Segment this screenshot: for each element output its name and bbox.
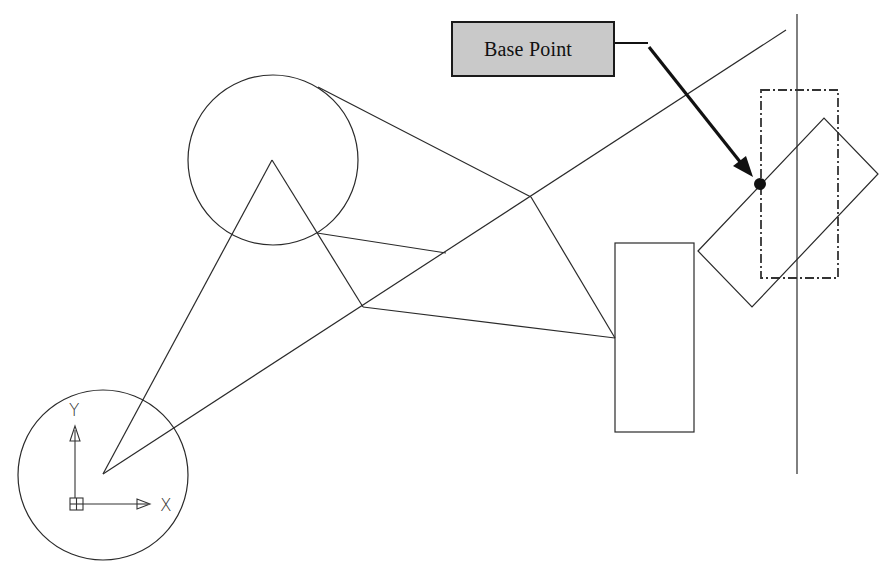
upper-circle	[188, 75, 358, 245]
ucs-y-label: Y	[69, 400, 79, 420]
line-right-vertex-to-rect	[531, 197, 615, 338]
base-point-marker	[754, 178, 766, 190]
ucs-x-label: X	[160, 495, 172, 515]
lower-circle	[18, 390, 188, 560]
line-circle-to-diagonal	[317, 233, 446, 253]
line-lower-vertex-to-apex	[103, 160, 272, 474]
line-mid-vertex-to-rect	[363, 307, 615, 338]
callout-arrow-shaft	[649, 47, 741, 163]
callout-label: Base Point	[453, 38, 572, 61]
long-diagonal-line	[103, 30, 786, 474]
ucs-icon: Y X	[69, 400, 172, 515]
base-point-callout: Base Point	[451, 21, 615, 77]
tangent-line-upper	[318, 87, 531, 197]
upright-rectangle	[615, 243, 694, 432]
dashed-rectangle	[761, 90, 838, 278]
cad-drawing-canvas: Y X	[0, 0, 890, 570]
